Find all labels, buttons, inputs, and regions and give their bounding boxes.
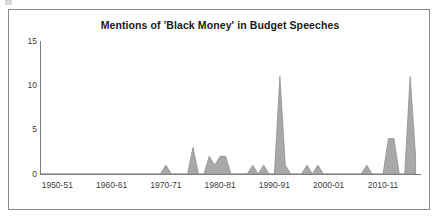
- y-tick-label: 15: [15, 37, 37, 46]
- x-tick-label: 2000-01: [313, 180, 344, 190]
- x-tick-label: 2010-11: [368, 180, 399, 190]
- chart-title: Mentions of 'Black Money' in Budget Spee…: [9, 19, 431, 31]
- x-axis-line: [40, 174, 421, 175]
- x-tick-label: 1960-61: [96, 180, 127, 190]
- area-series-black-money: [41, 41, 421, 174]
- chart-screenshot: Mentions of 'Black Money' in Budget Spee…: [0, 0, 438, 219]
- plot-area: [41, 41, 421, 174]
- x-tick-label: 1990-91: [259, 180, 290, 190]
- x-axis-tick-labels: 1950-511960-611970-711980-811990-912000-…: [9, 180, 431, 194]
- area-series-path: [41, 76, 416, 174]
- x-tick-label: 1980-81: [205, 180, 236, 190]
- y-tick-label: 5: [15, 125, 37, 134]
- y-tick-label: 10: [15, 81, 37, 90]
- y-tick-label: 0: [15, 170, 37, 179]
- x-tick-label: 1970-71: [150, 180, 181, 190]
- y-axis-tick-labels: 051015: [11, 41, 37, 175]
- x-tick-label: 1950-51: [42, 180, 73, 190]
- figure-frame: Mentions of 'Black Money' in Budget Spee…: [8, 9, 430, 210]
- corner-artifact: [5, 0, 12, 5]
